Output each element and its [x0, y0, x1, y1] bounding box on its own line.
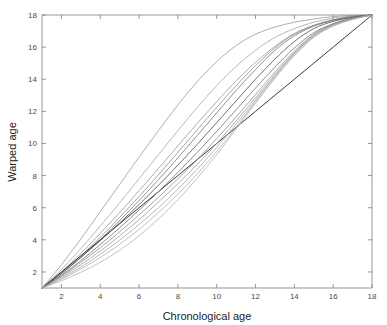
x-tick-label: 6: [137, 292, 142, 301]
x-tick-label: 10: [212, 292, 221, 301]
x-tick-label: 16: [329, 292, 338, 301]
x-tick-label: 4: [98, 292, 103, 301]
chart-figure: 24681012141618 24681012141618 Chronologi…: [0, 0, 387, 325]
y-axis-title: Warped age: [6, 122, 18, 182]
y-tick-label: 8: [33, 172, 38, 181]
y-tick-label: 4: [33, 236, 38, 245]
x-tick-label: 14: [290, 292, 299, 301]
y-tick-label: 10: [28, 139, 37, 148]
x-tick-label: 12: [251, 292, 260, 301]
y-tick-label: 2: [33, 268, 38, 277]
x-tick-label: 18: [368, 292, 377, 301]
warped-age-line-chart: 24681012141618 24681012141618 Chronologi…: [0, 0, 387, 325]
y-tick-label: 14: [28, 75, 37, 84]
y-tick-label: 16: [28, 43, 37, 52]
x-axis-title: Chronological age: [163, 310, 252, 322]
y-tick-label: 18: [28, 11, 37, 20]
x-tick-label: 2: [59, 292, 64, 301]
y-tick-label: 12: [28, 107, 37, 116]
x-tick-label: 8: [176, 292, 181, 301]
y-tick-label: 6: [33, 204, 38, 213]
